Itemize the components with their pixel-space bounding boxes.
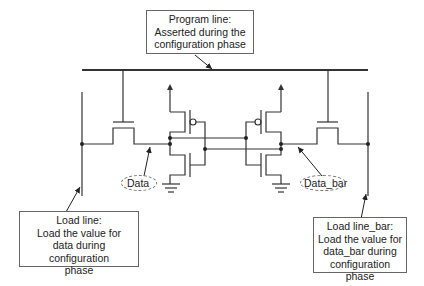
data-node-label: Data xyxy=(127,177,149,189)
load-line-bar-callout: Load line_bar: Load the value for data_b… xyxy=(313,217,407,273)
load-line-title: Load line: xyxy=(23,214,135,227)
data-bar-node-label: Data_bar xyxy=(304,177,347,189)
program-line-title: Program line: xyxy=(150,13,250,26)
load-line-callout: Load line: Load the value for data durin… xyxy=(19,211,139,267)
program-line-callout: Program line: Asserted during the config… xyxy=(146,10,254,54)
load-line-bar-title: Load line_bar: xyxy=(317,220,403,233)
